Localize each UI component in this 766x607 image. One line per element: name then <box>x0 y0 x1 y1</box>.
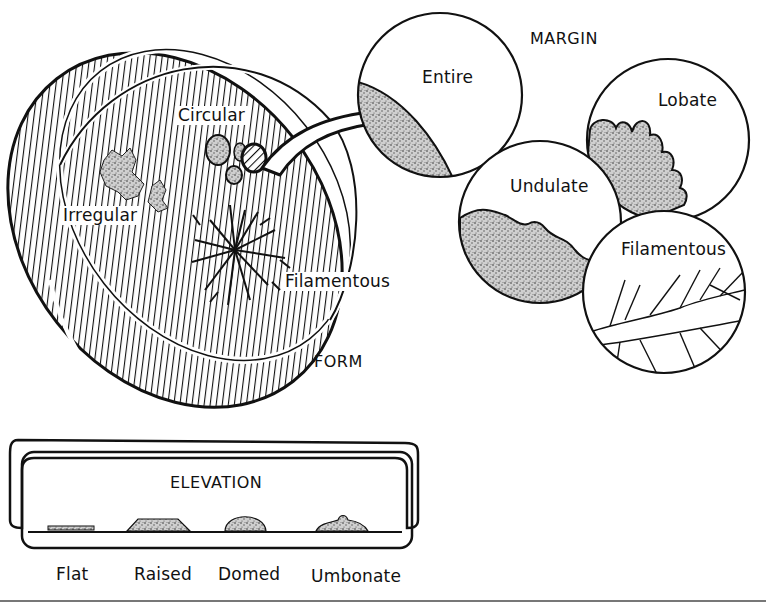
label-margin-entire: Entire <box>422 69 473 86</box>
label-margin-lobate: Lobate <box>658 92 717 109</box>
label-elevation-flat: Flat <box>56 566 88 583</box>
label-margin-undulate: Undulate <box>510 178 589 195</box>
heading-elevation: ELEVATION <box>170 475 262 491</box>
petri-dish-form <box>0 0 411 474</box>
margin-filamentous-circle <box>583 211 745 380</box>
heading-margin: MARGIN <box>530 31 598 47</box>
illustration <box>0 0 766 607</box>
label-elevation-raised: Raised <box>134 566 192 583</box>
label-form-filamentous: Filamentous <box>282 272 393 291</box>
elevation-tray <box>10 440 418 548</box>
label-elevation-umbonate: Umbonate <box>311 568 401 585</box>
label-margin-filamentous: Filamentous <box>621 241 726 258</box>
label-form-circular: Circular <box>175 106 248 125</box>
label-elevation-domed: Domed <box>218 566 280 583</box>
label-form-irregular: Irregular <box>60 206 140 225</box>
heading-form: FORM <box>314 354 363 370</box>
bottom-divider <box>0 600 766 602</box>
